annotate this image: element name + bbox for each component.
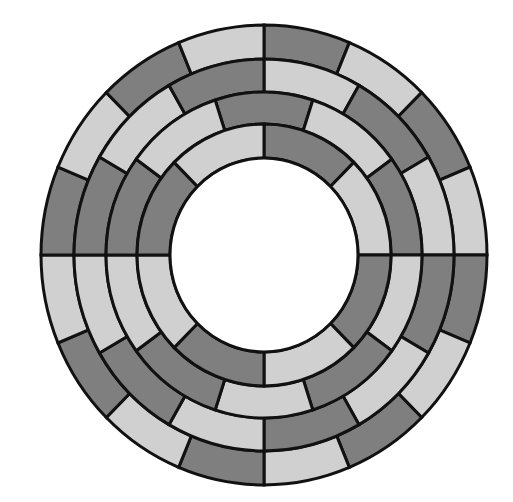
segmented-ring-diagram [0, 0, 513, 502]
center-hole [170, 158, 358, 352]
